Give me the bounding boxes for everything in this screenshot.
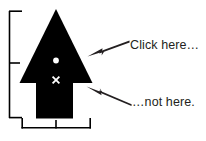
lower-leader-shaft [99, 91, 131, 106]
arrow-shaft [36, 82, 73, 119]
up-arrow-glyph [20, 9, 93, 119]
lower-leader-head [87, 87, 103, 96]
height-bracket [9, 11, 22, 118]
arrowhead-triangle [20, 9, 93, 83]
annotation-label-click-here: Click here… [130, 39, 199, 52]
arrow-left-icon-lower [87, 87, 132, 107]
arrow-left-icon-upper [88, 41, 130, 57]
diagram-graphics [0, 0, 206, 141]
diagram-canvas: Click here… …not here. [0, 0, 206, 141]
width-bracket [22, 118, 92, 128]
annotation-label-not-here: …not here. [132, 96, 195, 109]
white-dot-marker [53, 58, 59, 64]
